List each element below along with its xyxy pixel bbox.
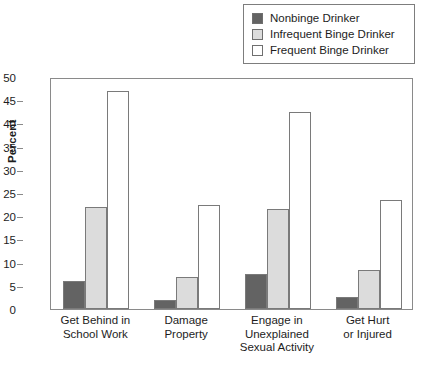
bar [267, 209, 289, 309]
x-category-label-line: Unexplained [232, 328, 323, 342]
bar-group [63, 79, 129, 309]
y-tick-label: 25 [0, 189, 16, 200]
legend-item-nonbinge-drinker: Nonbinge Drinker [252, 10, 407, 26]
bar-group [336, 79, 402, 309]
y-tick-mark [17, 194, 23, 195]
y-tick-mark [17, 240, 23, 241]
bar [107, 91, 129, 309]
bar [85, 207, 107, 309]
y-tick-mark [17, 171, 23, 172]
y-tick-mark [17, 287, 23, 288]
bar [245, 274, 267, 309]
x-category-label-line: Property [141, 328, 232, 342]
legend-item-label: Nonbinge Drinker [270, 12, 360, 25]
bar [63, 281, 85, 309]
x-axis: Get Behind inSchool WorkDamagePropertyEn… [50, 314, 413, 370]
legend-item-label: Frequent Binge Drinker [270, 44, 389, 57]
bar [198, 205, 220, 309]
y-tick-mark [17, 124, 23, 125]
y-axis: Percent 05101520253035404550 [0, 0, 50, 371]
legend-swatch-icon [252, 29, 263, 40]
x-category-label-line: or Injured [322, 328, 413, 342]
bar [336, 297, 358, 309]
x-category-label: Get Hurtor Injured [322, 314, 413, 341]
plot-area [50, 78, 413, 310]
y-tick-mark [17, 264, 23, 265]
x-category-label-line: Get Hurt [322, 314, 413, 328]
y-tick-label: 10 [0, 259, 16, 270]
x-category-label-line: Sexual Activity [232, 341, 323, 355]
x-category-label: DamageProperty [141, 314, 232, 341]
y-tick-mark [17, 101, 23, 102]
bars-layer [51, 79, 412, 309]
x-category-label: Get Behind inSchool Work [50, 314, 141, 341]
chart-legend: Nonbinge Drinker Infrequent Binge Drinke… [243, 4, 415, 64]
legend-swatch-icon [252, 45, 263, 56]
y-tick-label: 45 [0, 96, 16, 107]
legend-item-frequent-binge-drinker: Frequent Binge Drinker [252, 42, 407, 58]
legend-swatch-icon [252, 13, 263, 24]
y-tick-label: 15 [0, 235, 16, 246]
bar [289, 112, 311, 309]
bar-group [245, 79, 311, 309]
bar [380, 200, 402, 309]
x-category-label-line: School Work [50, 328, 141, 342]
y-tick-label: 20 [0, 212, 16, 223]
bar [176, 277, 198, 309]
bar [154, 300, 176, 309]
x-category-label-line: Get Behind in [50, 314, 141, 328]
y-tick-mark [17, 148, 23, 149]
bar-group [154, 79, 220, 309]
legend-item-label: Infrequent Binge Drinker [270, 28, 395, 41]
y-tick-mark [17, 217, 23, 218]
x-category-label-line: Damage [141, 314, 232, 328]
y-tick-label: 35 [0, 143, 16, 154]
y-tick-label: 0 [0, 305, 16, 316]
legend-item-infrequent-binge-drinker: Infrequent Binge Drinker [252, 26, 407, 42]
bar [358, 270, 380, 309]
x-category-label: Engage inUnexplainedSexual Activity [232, 314, 323, 355]
y-tick-label: 50 [0, 73, 16, 84]
x-category-label-line: Engage in [232, 314, 323, 328]
y-tick-label: 5 [0, 282, 16, 293]
y-tick-label: 40 [0, 119, 16, 130]
y-tick-label: 30 [0, 166, 16, 177]
